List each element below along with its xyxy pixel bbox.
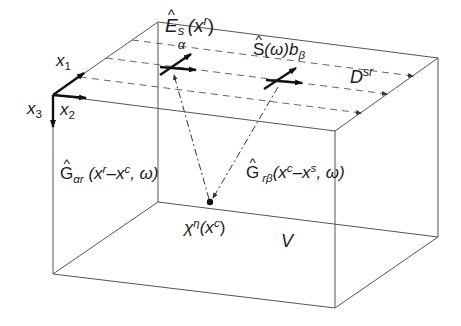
dashed-line-3 bbox=[80, 77, 361, 113]
x2-label: x2 bbox=[60, 101, 75, 118]
x3-label: x3 bbox=[27, 100, 42, 117]
source-label: S(ω)bβ bbox=[253, 41, 305, 58]
dashed-line-2 bbox=[106, 58, 387, 94]
x2-axis-arrow bbox=[53, 95, 86, 98]
edge-bottom-left bbox=[53, 202, 158, 274]
volume-label: V bbox=[281, 232, 293, 250]
x1-axis-arrow bbox=[53, 73, 84, 95]
data-label: Dsr bbox=[350, 68, 373, 86]
edge-top-front bbox=[53, 95, 335, 131]
edge-bottom-right bbox=[335, 237, 438, 308]
x1-label: x1 bbox=[56, 52, 71, 69]
contrast-label: χη(xc) bbox=[184, 219, 225, 236]
path-scatter-to-receiver bbox=[174, 75, 209, 199]
receiver-symbol bbox=[160, 54, 196, 75]
edge-bottom-front bbox=[53, 274, 335, 308]
green-receiver-label: Gαr (xr–xc, ω) bbox=[60, 165, 159, 182]
green-source-label: Grβ(xc–xs, ω) bbox=[246, 164, 345, 181]
source-symbol bbox=[264, 68, 302, 89]
receiver-field-label: Esα(xr) bbox=[165, 16, 214, 35]
scatter-point bbox=[207, 199, 213, 205]
